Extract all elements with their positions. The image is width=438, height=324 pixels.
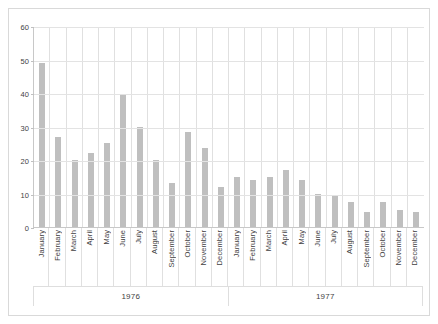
- x-axis-tick-label: December: [410, 230, 419, 265]
- x-axis-group-label: 1977: [316, 292, 335, 301]
- x-axis-tick-cell: October: [374, 228, 390, 286]
- x-axis-tick-cell: March: [261, 228, 277, 286]
- x-axis-tick-label: March: [264, 230, 273, 251]
- bar: [348, 202, 354, 227]
- y-axis: 0102030405060: [9, 27, 31, 227]
- bar: [267, 177, 273, 227]
- y-axis-tick: [31, 161, 34, 162]
- x-axis-tick-cell: February: [244, 228, 260, 286]
- x-axis-tick-cell: January: [33, 228, 49, 286]
- x-axis-tick-label: December: [215, 230, 224, 265]
- bar: [250, 180, 256, 227]
- x-axis-tick-label: April: [280, 230, 289, 246]
- y-axis-tick-label: 30: [20, 123, 29, 132]
- x-axis-tick-cell: September: [163, 228, 179, 286]
- y-axis-tick-label: 50: [20, 56, 29, 65]
- x-axis-group-label: 1976: [121, 292, 140, 301]
- x-axis-tick-cell: June: [309, 228, 325, 286]
- x-axis-tick-label: June: [313, 230, 322, 247]
- y-axis-tick: [31, 61, 34, 62]
- x-axis-tick-label: July: [134, 230, 143, 244]
- chart-plot-wrapper: 0102030405060 JanuaryFebruaryMarchAprilM…: [9, 9, 429, 315]
- x-axis-tick-cell: June: [114, 228, 130, 286]
- x-axis-tick-label: May: [297, 230, 306, 244]
- bar: [153, 160, 159, 227]
- plot-area: [33, 27, 424, 228]
- gridline: [34, 61, 424, 62]
- bar: [55, 137, 61, 227]
- bar: [364, 212, 370, 227]
- gridline: [34, 161, 424, 162]
- x-axis-tick-label: January: [232, 230, 241, 257]
- y-axis-tick-label: 20: [20, 157, 29, 166]
- bar: [234, 177, 240, 227]
- bar: [332, 195, 338, 227]
- gridline: [34, 27, 424, 28]
- x-axis-tick-cell: November: [391, 228, 407, 286]
- x-axis-tick-cell: May: [293, 228, 309, 286]
- x-axis-tick-cell: December: [212, 228, 228, 286]
- x-axis-tick-label: March: [69, 230, 78, 251]
- x-axis-tick-cell: March: [66, 228, 82, 286]
- y-axis-tick-label: 0: [25, 224, 29, 233]
- x-axis-tick-label: January: [37, 230, 46, 257]
- bar: [137, 127, 143, 228]
- x-axis-tick-label: August: [150, 230, 159, 254]
- bar: [315, 194, 321, 228]
- x-axis-tick-cell: August: [342, 228, 358, 286]
- gridline: [34, 94, 424, 95]
- x-axis-tick-label: October: [183, 230, 192, 257]
- x-axis-tick-cell: January: [228, 228, 244, 286]
- y-axis-tick-label: 10: [20, 190, 29, 199]
- x-axis-tick-cell: July: [326, 228, 342, 286]
- x-axis: JanuaryFebruaryMarchAprilMayJuneJulyAugu…: [33, 228, 423, 286]
- x-axis-tick-label: October: [378, 230, 387, 257]
- x-axis-tick-label: April: [85, 230, 94, 246]
- x-axis-group-cell: 1977: [229, 286, 424, 306]
- x-axis-tick-cell: September: [358, 228, 374, 286]
- gridline: [34, 128, 424, 129]
- x-axis-tick-cell: February: [49, 228, 65, 286]
- y-axis-tick-label: 60: [20, 23, 29, 32]
- chart-frame: 0102030405060 JanuaryFebruaryMarchAprilM…: [8, 8, 430, 316]
- x-axis-tick-cell: July: [131, 228, 147, 286]
- x-axis-tick-cell: December: [407, 228, 423, 286]
- y-axis-tick: [31, 195, 34, 196]
- y-axis-tick: [31, 94, 34, 95]
- x-axis-tick-label: May: [102, 230, 111, 244]
- x-axis-tick-cell: May: [98, 228, 114, 286]
- gridline: [34, 195, 424, 196]
- x-axis-tick-label: September: [167, 230, 176, 268]
- x-axis-tick-label: February: [53, 230, 62, 261]
- x-axis-tick-cell: April: [277, 228, 293, 286]
- x-axis-tick-cell: April: [82, 228, 98, 286]
- bar: [169, 183, 175, 227]
- bar: [185, 132, 191, 227]
- bar: [380, 202, 386, 227]
- x-axis-tick-label: February: [248, 230, 257, 261]
- x-axis-tick-cell: October: [179, 228, 195, 286]
- bar: [88, 153, 94, 227]
- bar: [72, 160, 78, 227]
- bar: [39, 63, 45, 227]
- x-axis-tick-label: November: [199, 230, 208, 265]
- bar: [218, 187, 224, 227]
- bar: [283, 170, 289, 227]
- x-axis-tick-label: June: [118, 230, 127, 247]
- x-axis-tick-label: September: [362, 230, 371, 268]
- y-axis-tick-label: 40: [20, 90, 29, 99]
- x-axis-tick-cell: November: [196, 228, 212, 286]
- bar: [299, 180, 305, 227]
- bar: [413, 212, 419, 227]
- bar: [104, 143, 110, 227]
- bar: [397, 210, 403, 227]
- y-axis-tick: [31, 27, 34, 28]
- x-axis-tick-label: November: [394, 230, 403, 265]
- x-axis-tick-cell: August: [147, 228, 163, 286]
- x-axis-group-cell: 1976: [33, 286, 229, 306]
- y-axis-tick: [31, 128, 34, 129]
- x-axis-tick-label: August: [345, 230, 354, 254]
- x-axis-group-row: 19761977: [33, 286, 423, 306]
- x-axis-tick-label: July: [329, 230, 338, 244]
